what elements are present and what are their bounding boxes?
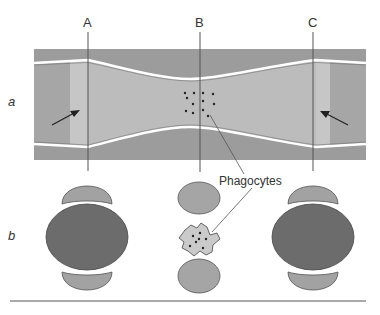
- row-label-b: b: [8, 228, 15, 243]
- section-label-b: B: [195, 15, 204, 30]
- row-label-a: a: [8, 94, 15, 109]
- phagocytes-label: Phagocytes: [219, 174, 282, 188]
- vessel-diagram: A B C a b Phagocytes: [0, 0, 380, 315]
- cross-section-c: [272, 186, 354, 290]
- section-label-a: A: [83, 15, 92, 30]
- cross-section-b: [178, 182, 220, 293]
- section-label-c: C: [308, 15, 317, 30]
- cross-section-a: [46, 186, 128, 290]
